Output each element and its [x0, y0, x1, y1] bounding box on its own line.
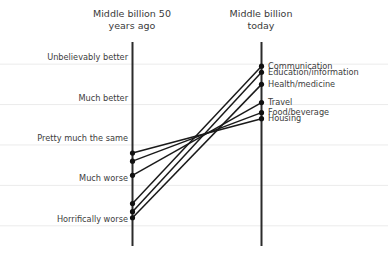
series-label: Housing: [268, 114, 301, 123]
data-point-marker: [259, 64, 264, 69]
data-point-marker: [130, 209, 135, 214]
data-point-marker: [130, 201, 135, 206]
data-point-marker: [259, 82, 264, 87]
data-point-marker: [130, 150, 135, 155]
data-point-marker: [130, 215, 135, 220]
data-point-marker: [130, 173, 135, 178]
slope-line: [133, 72, 262, 211]
slope-line: [133, 119, 262, 153]
slope-lines: [133, 66, 262, 218]
y-axis-tick-label: Unbelievably better: [0, 53, 128, 62]
series-label: Education/information: [268, 68, 359, 77]
slope-chart: Middle billion 50 years ago Middle billi…: [0, 0, 388, 262]
y-axis-tick-label: Much better: [0, 94, 128, 103]
slope-line: [133, 66, 262, 203]
data-point-marker: [259, 110, 264, 115]
axis-lines: [133, 42, 262, 246]
data-point-marker: [259, 100, 264, 105]
data-point-marker: [130, 159, 135, 164]
slope-line: [133, 113, 262, 161]
y-axis-tick-label: Pretty much the same: [0, 134, 128, 143]
slope-line: [133, 103, 262, 176]
y-axis-tick-labels: Horrifically worseMuch worsePretty much …: [0, 0, 128, 262]
y-axis-tick-label: Horrifically worse: [0, 215, 128, 224]
series-label: Travel: [268, 98, 292, 107]
y-axis-tick-label: Much worse: [0, 174, 128, 183]
series-label: Health/medicine: [268, 80, 335, 89]
data-point-marker: [259, 116, 264, 121]
series-label-group: CommunicationEducation/informationHealth…: [268, 0, 388, 262]
data-point-marker: [259, 70, 264, 75]
